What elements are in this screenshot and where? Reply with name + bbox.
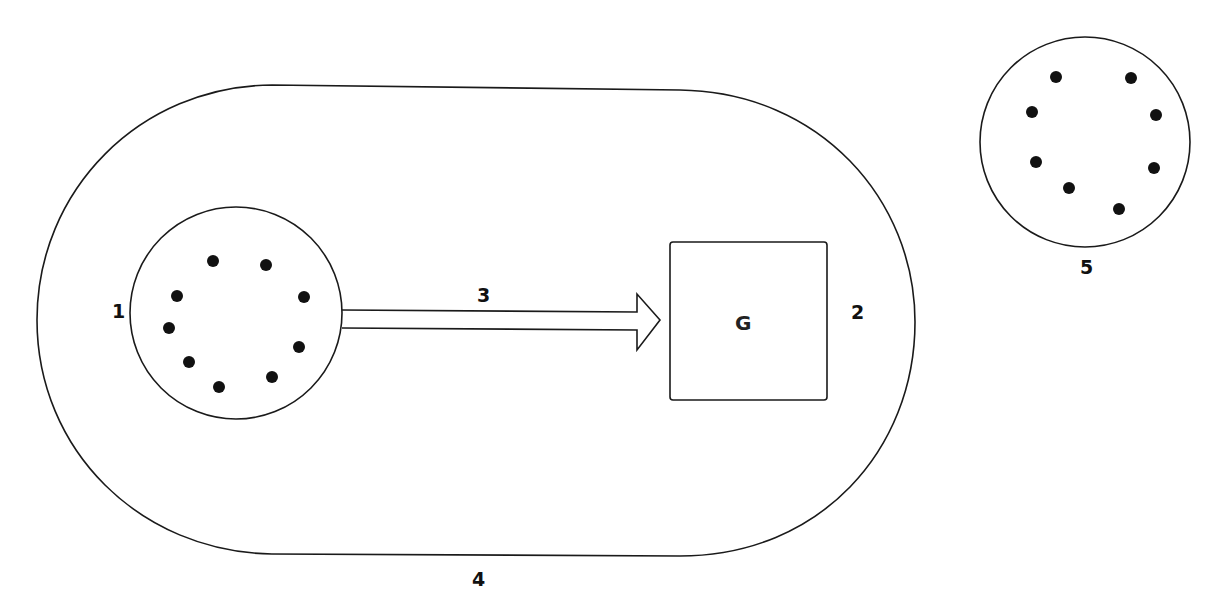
particle-dot xyxy=(1026,106,1038,118)
particle-dot xyxy=(298,291,310,303)
particle-dot xyxy=(171,290,183,302)
particle-dot xyxy=(293,341,305,353)
particle-dot xyxy=(266,371,278,383)
circle-5 xyxy=(980,37,1190,247)
particle-dot xyxy=(163,322,175,334)
particle-dot xyxy=(207,255,219,267)
particle-dot xyxy=(213,381,225,393)
particle-dot xyxy=(1063,182,1075,194)
particle-dot xyxy=(1150,109,1162,121)
label-2: 2 xyxy=(851,301,864,323)
transfer-arrow xyxy=(342,294,660,350)
label-1: 1 xyxy=(112,300,125,322)
label-4: 4 xyxy=(472,568,485,590)
particle-dot xyxy=(1113,203,1125,215)
particle-dot xyxy=(1050,71,1062,83)
label-3: 3 xyxy=(477,284,490,306)
particle-dot xyxy=(1125,72,1137,84)
particle-dot xyxy=(1148,162,1160,174)
particle-dot xyxy=(260,259,272,271)
particle-dot xyxy=(1030,156,1042,168)
particle-dot xyxy=(183,356,195,368)
label-5: 5 xyxy=(1080,256,1093,278)
label-g: G xyxy=(735,311,751,335)
diagram-canvas: 1 3 G 2 4 5 xyxy=(0,0,1223,616)
outer-boundary xyxy=(37,85,915,556)
circle-1 xyxy=(130,207,342,419)
